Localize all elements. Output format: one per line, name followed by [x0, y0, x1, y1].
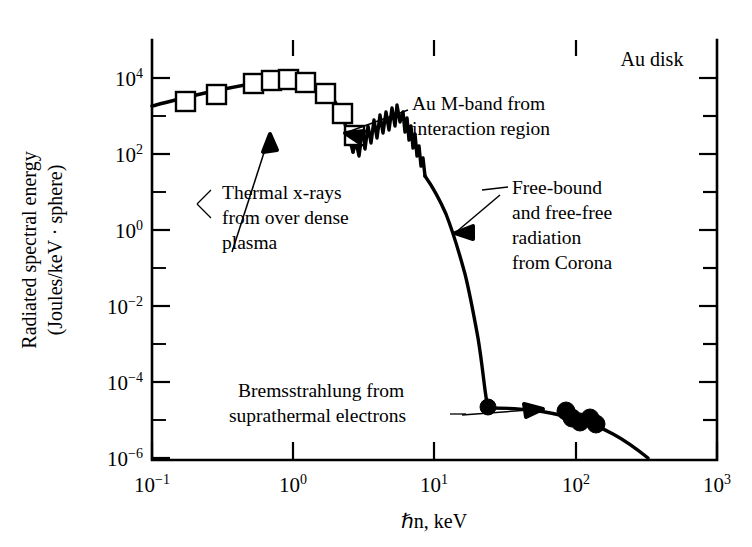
annotation-free-bound-line3: radiation — [512, 227, 582, 248]
y-tick-exponent-5: −6 — [128, 446, 143, 461]
x-tick-mantissa-0: 10 — [134, 473, 155, 497]
x-tick-exponent-2: 1 — [441, 472, 448, 487]
data-point-square — [176, 92, 195, 111]
y-axis-title-line2: (Joules/keV · sphere) — [44, 165, 67, 336]
y-tick-exponent-3: −2 — [128, 294, 143, 309]
x-tick-mantissa-3: 10 — [562, 473, 583, 497]
chart-svg: 104 102 100 10−2 10−4 10−6 10−1 100 101 … — [0, 0, 752, 547]
x-axis-title-text: ℏn, keV — [401, 510, 468, 532]
x-tick-exponent-3: 2 — [583, 472, 590, 487]
data-point-square — [207, 85, 226, 104]
x-axis-top-ticks — [293, 40, 576, 56]
y-tick-labels: 104 102 100 10−2 10−4 10−6 — [107, 66, 143, 471]
y-tick-mantissa-2: 10 — [115, 219, 136, 243]
arrowhead-free-bound — [455, 226, 473, 239]
svg-text:104: 104 — [115, 66, 143, 91]
annotation-free-bound-line4: from Corona — [512, 252, 613, 273]
x-tick-mantissa-1: 10 — [279, 473, 300, 497]
plot-title: Au disk — [621, 48, 684, 70]
y-tick-mantissa-4: 10 — [107, 371, 128, 395]
arrowhead-bremsstrahlung — [524, 404, 543, 417]
y-tick-mantissa-5: 10 — [107, 447, 128, 471]
x-tick-exponent-1: 0 — [300, 472, 307, 487]
annotation-bremsstrahlung: Bremsstrahlung from suprathermal electro… — [229, 380, 543, 426]
annotation-thermal-xrays: Thermal x-rays from over dense plasma — [197, 134, 349, 253]
svg-text:102: 102 — [115, 142, 143, 167]
y-axis-title-line1: Radiated spectral energy — [18, 151, 41, 348]
x-tick-mantissa-4: 10 — [703, 473, 724, 497]
y-axis-right-ticks — [699, 78, 717, 420]
y-tick-exponent-0: 4 — [136, 66, 143, 81]
annotation-bremsstrahlung-line1: Bremsstrahlung from — [238, 380, 404, 401]
data-point-square — [333, 104, 352, 123]
annotation-thermal-xrays-line1: Thermal x-rays — [222, 182, 342, 203]
annotation-free-bound-line1: Free-bound — [512, 177, 602, 198]
y-tick-mantissa-3: 10 — [107, 295, 128, 319]
spectrum-curve-free-bound — [425, 176, 488, 408]
arrowhead-thermal-xrays — [263, 134, 277, 152]
data-point-square — [316, 84, 335, 103]
x-tick-mantissa-2: 10 — [420, 473, 441, 497]
annotation-au-m-band-line2: interaction region — [412, 118, 550, 139]
data-point-circle — [587, 415, 605, 433]
svg-text:10−2: 10−2 — [107, 294, 143, 319]
annotation-au-m-band-line1: Au M-band from — [412, 93, 545, 114]
svg-text:10−4: 10−4 — [107, 370, 143, 395]
svg-text:101: 101 — [420, 472, 448, 497]
x-axis-title: ℏn, keV — [401, 510, 468, 532]
radiated-spectral-energy-chart: 104 102 100 10−2 10−4 10−6 10−1 100 101 … — [0, 0, 752, 547]
annotation-thermal-xrays-line2: from over dense — [222, 207, 349, 228]
y-axis-title: Radiated spectral energy (Joules/keV · s… — [18, 151, 67, 348]
data-point-square — [244, 74, 263, 93]
svg-text:100: 100 — [115, 218, 143, 243]
svg-text:103: 103 — [703, 472, 731, 497]
y-tick-exponent-4: −4 — [128, 370, 143, 385]
data-markers-filled-circles — [480, 399, 605, 433]
y-tick-mantissa-1: 10 — [115, 143, 136, 167]
annotation-bremsstrahlung-line2: suprathermal electrons — [229, 405, 406, 426]
annotation-free-bound-line2: and free-free — [512, 202, 612, 223]
x-tick-exponent-0: −1 — [155, 472, 170, 487]
x-tick-labels: 10−1 100 101 102 103 — [134, 472, 731, 497]
data-point-square — [296, 73, 315, 92]
svg-text:102: 102 — [562, 472, 590, 497]
svg-text:10−6: 10−6 — [107, 446, 143, 471]
annotation-thermal-xrays-line3: plasma — [222, 232, 278, 253]
x-tick-exponent-4: 3 — [724, 472, 731, 487]
y-tick-exponent-2: 0 — [136, 218, 143, 233]
y-axis-minor-ticks — [152, 116, 166, 420]
svg-text:10−1: 10−1 — [134, 472, 170, 497]
annotation-free-bound: Free-bound and free-free radiation from … — [455, 177, 613, 273]
svg-text:100: 100 — [279, 472, 307, 497]
y-tick-mantissa-0: 10 — [115, 67, 136, 91]
y-tick-exponent-1: 2 — [136, 142, 143, 157]
